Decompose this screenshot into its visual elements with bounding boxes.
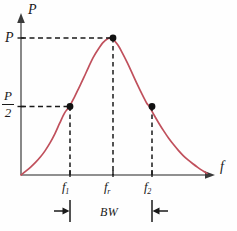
chart-canvas bbox=[0, 0, 237, 231]
x-tick-label-f2: f2 bbox=[144, 180, 152, 193]
x-tick-label-f1-subscript: 1 bbox=[65, 187, 69, 196]
y-axis-title: P bbox=[28, 3, 37, 17]
bandwidth-label: BW bbox=[100, 206, 118, 218]
half-power-fraction: P 2 bbox=[2, 89, 14, 119]
y-axis-arrowhead bbox=[17, 13, 25, 23]
data-markers-group bbox=[67, 35, 156, 110]
bw-left-arrowhead bbox=[63, 208, 70, 215]
marker-f1-half-power bbox=[67, 103, 74, 110]
bw-right-arrowhead bbox=[153, 208, 160, 215]
x-tick-label-f1: f1 bbox=[62, 180, 70, 193]
x-tick-label-fr-subscript: r bbox=[107, 187, 110, 196]
x-tick-marks-group bbox=[70, 170, 152, 177]
half-power-denominator: 2 bbox=[2, 105, 14, 120]
bandwidth-curve-figure: P f P P 2 f1 fr f2 BW bbox=[0, 0, 237, 231]
x-tick-label-f2-subscript: 2 bbox=[147, 187, 151, 196]
x-tick-label-fr: fr bbox=[104, 180, 111, 193]
marker-f2-half-power bbox=[149, 103, 156, 110]
x-axis-title: f bbox=[220, 160, 224, 174]
half-power-value-label: P 2 bbox=[2, 89, 14, 119]
peak-power-value-label: P bbox=[5, 31, 14, 45]
guide-lines-group bbox=[21, 38, 152, 175]
marker-fr-peak bbox=[110, 35, 117, 42]
half-power-numerator: P bbox=[2, 89, 14, 105]
